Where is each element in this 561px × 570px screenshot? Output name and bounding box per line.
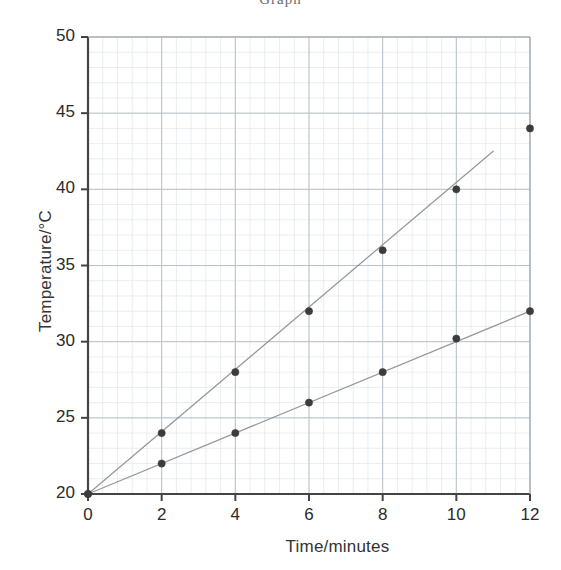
x-tick-label: 2 — [142, 505, 182, 525]
y-tick-label: 35 — [56, 255, 75, 275]
x-tick-label: 0 — [68, 505, 108, 525]
y-tick-label: 25 — [56, 407, 75, 427]
x-tick-label: 12 — [510, 505, 550, 525]
y-axis-title: Temperature/°C — [36, 209, 56, 331]
x-tick-label: 8 — [363, 505, 403, 525]
x-tick-label: 4 — [215, 505, 255, 525]
x-tick-label: 10 — [436, 505, 476, 525]
x-tick-label: 6 — [289, 505, 329, 525]
x-axis-title: Time/minutes — [0, 537, 561, 557]
graph-figure: Graph 20253035404550024681012 Temperatur… — [0, 0, 561, 570]
axis-ticks — [81, 37, 530, 501]
chart-canvas — [0, 0, 561, 570]
y-tick-label: 40 — [56, 178, 75, 198]
y-tick-label: 50 — [56, 26, 75, 46]
y-tick-label: 30 — [56, 331, 75, 351]
y-tick-label: 20 — [56, 483, 75, 503]
major-gridlines — [88, 37, 530, 494]
y-tick-label: 45 — [56, 102, 75, 122]
